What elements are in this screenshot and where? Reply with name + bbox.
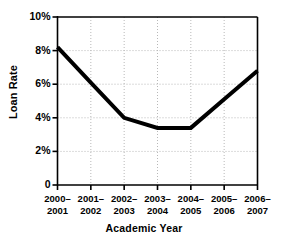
y-tick-label: 6% bbox=[17, 77, 51, 89]
y-tick-label: 10% bbox=[17, 10, 51, 22]
y-tick-label: 2% bbox=[17, 144, 51, 156]
x-tick-label: 2006–2007 bbox=[238, 193, 278, 216]
x-tick-label-line: 2007 bbox=[238, 205, 278, 217]
gridlines bbox=[58, 17, 258, 185]
y-tick-label: 0 bbox=[17, 178, 51, 190]
y-tick-label: 8% bbox=[17, 44, 51, 56]
axis-ticks bbox=[53, 17, 258, 190]
x-tick-label-line: 2006– bbox=[238, 193, 278, 205]
y-tick-label: 4% bbox=[17, 111, 51, 123]
chart-container: Loan Rate Academic Year 02%4%6%8%10% 200… bbox=[0, 0, 288, 242]
